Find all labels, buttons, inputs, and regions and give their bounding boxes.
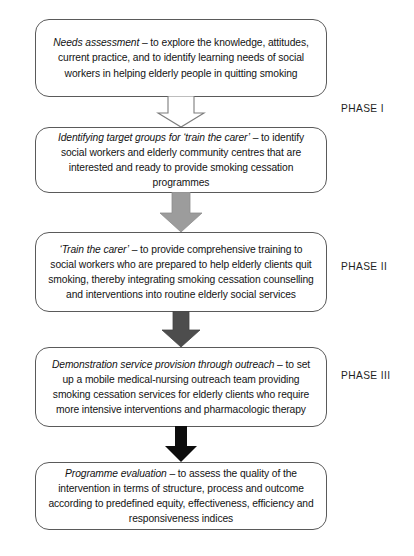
flow-node-text: Demonstration service provision through … <box>48 357 314 418</box>
phase-label-1: PHASE I <box>341 103 384 114</box>
flow-arrow-3-dark-gray <box>0 311 414 348</box>
flow-node-lead: Demonstration service provision through … <box>52 359 274 370</box>
flow-node-needs-assessment: Needs assessment – to explore the knowle… <box>35 19 327 97</box>
down-arrow-icon <box>158 96 204 127</box>
phase-label-3: PHASE III <box>341 370 390 381</box>
down-arrow-icon <box>160 192 202 232</box>
flow-node-lead: Identifying target groups for ‘train the… <box>58 132 250 143</box>
flowchart-canvas: Needs assessment – to explore the knowle… <box>0 0 414 556</box>
flow-node-text: Needs assessment – to explore the knowle… <box>48 35 314 81</box>
flow-node-text: Identifying target groups for ‘train the… <box>48 130 314 191</box>
flow-node-lead: Programme evaluation <box>65 468 167 479</box>
flow-arrow-4-black <box>0 426 414 463</box>
flow-node-demonstration-service-provision: Demonstration service provision through … <box>35 347 327 427</box>
flow-node-programme-evaluation: Programme evaluation – to assess the qua… <box>35 462 327 530</box>
down-arrow-icon <box>162 311 200 347</box>
flow-node-text: Programme evaluation – to assess the qua… <box>48 466 314 527</box>
flow-node-lead: Needs assessment <box>53 37 139 48</box>
down-arrow-icon <box>165 426 197 462</box>
phase-label-2: PHASE II <box>341 261 387 272</box>
flow-node-identifying-target-groups: Identifying target groups for ‘train the… <box>35 127 327 193</box>
flow-arrow-2-gray <box>0 192 414 233</box>
flow-node-train-the-carer: ‘Train the carer’ – to provide comprehen… <box>35 232 327 312</box>
flow-node-lead: ‘Train the carer’ <box>60 244 129 255</box>
flow-node-text: ‘Train the carer’ – to provide comprehen… <box>48 242 314 303</box>
